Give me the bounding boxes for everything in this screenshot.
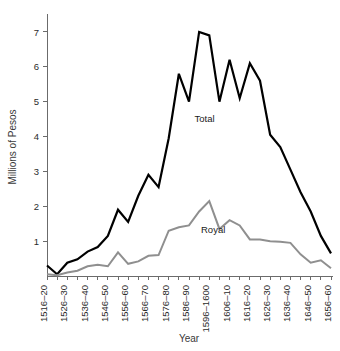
y-tick-label: 6 [34,61,39,72]
x-tick-label: 1606–10 [221,285,232,322]
series-annotation-royal: Royal [201,224,225,235]
y-tick-label: 5 [34,96,39,107]
x-tick-label: 1636–40 [281,285,292,322]
chart-container: 1234567Millions of Pesos1516–201526–3015… [0,0,340,351]
line-chart: 1234567Millions of Pesos1516–201526–3015… [0,0,340,351]
x-tick-label: 1556–60 [119,285,130,322]
series-line-total [47,32,331,274]
x-tick-label: 1616–20 [241,285,252,322]
x-tick-label: 1626–30 [261,285,272,322]
y-tick-label: 2 [34,201,39,212]
x-tick-label: 1526–30 [58,285,69,322]
x-tick-label: 1656–60 [322,285,333,322]
x-tick-label: 1596–1600 [200,285,211,333]
y-tick-label: 4 [34,131,39,142]
x-tick-label: 1516–20 [38,285,49,322]
x-tick-label: 1586–90 [180,285,191,322]
y-axis-title: Millions of Pesos [7,109,18,184]
series-annotation-total: Total [195,113,215,124]
y-tick-label: 7 [34,27,39,38]
x-tick-label: 1646–50 [302,285,313,322]
y-tick-label: 3 [34,166,39,177]
y-tick-label: 1 [34,236,39,247]
x-axis-title: Year [179,333,200,344]
x-tick-label: 1566–70 [139,285,150,322]
x-tick-label: 1546–50 [99,285,110,322]
x-tick-label: 1536–40 [79,285,90,322]
x-tick-label: 1576–80 [160,285,171,322]
series-line-royal [47,201,331,275]
